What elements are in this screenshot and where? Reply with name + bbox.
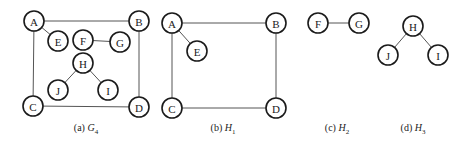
caption-subscript: 1 (232, 128, 236, 136)
panel-a: ABEFGHJICD (23, 11, 149, 117)
node-label: C (29, 101, 36, 113)
caption-variable: G (87, 122, 94, 133)
node-label: D (135, 102, 143, 114)
panel-b: ABECD (162, 13, 286, 118)
node-G: G (349, 13, 369, 33)
caption-subscript: 2 (346, 128, 350, 136)
node-label: E (55, 36, 62, 48)
node-label: A (30, 16, 38, 28)
edge-A-C (33, 21, 34, 106)
caption-prefix: (b) (211, 122, 225, 133)
node-D: D (129, 97, 149, 117)
node-label: I (436, 50, 440, 62)
panel-d: HJI (378, 16, 448, 65)
caption-prefix: (a) (74, 122, 88, 133)
node-C: C (23, 96, 43, 116)
panel-c: FG (308, 13, 369, 33)
caption-variable: H (338, 122, 345, 133)
caption-a: (a) G4 (74, 122, 98, 136)
node-label: A (168, 18, 176, 30)
node-label: G (116, 37, 124, 49)
node-G: G (110, 32, 130, 52)
node-F: F (73, 30, 93, 50)
caption-prefix: (c) (325, 122, 339, 133)
caption-b: (b) H1 (211, 122, 236, 136)
node-J: J (378, 45, 398, 65)
caption-subscript: 3 (422, 128, 426, 136)
node-label: C (168, 103, 175, 115)
node-A: A (162, 13, 182, 33)
caption-prefix: (d) (401, 122, 415, 133)
caption-subscript: 4 (95, 128, 99, 136)
node-B: B (129, 11, 149, 31)
node-H: H (73, 53, 93, 73)
node-E: E (48, 31, 68, 51)
node-label: B (135, 16, 142, 28)
node-H: H (403, 16, 423, 36)
node-I: I (428, 45, 448, 65)
node-label: J (56, 85, 61, 97)
node-label: H (79, 58, 87, 70)
edge-C-D (33, 106, 139, 107)
node-B: B (266, 13, 286, 33)
node-label: H (409, 21, 417, 33)
caption-c: (c) H2 (325, 122, 349, 136)
node-C: C (162, 98, 182, 118)
node-E: E (187, 41, 207, 61)
node-J: J (48, 80, 68, 100)
node-label: E (194, 46, 201, 58)
node-label: D (272, 103, 280, 115)
node-I: I (98, 80, 118, 100)
node-A: A (24, 11, 44, 31)
caption-d: (d) H3 (401, 122, 426, 136)
node-label: F (80, 35, 86, 47)
node-label: G (355, 18, 363, 30)
node-F: F (308, 13, 328, 33)
node-label: I (106, 85, 110, 97)
node-label: J (386, 50, 391, 62)
node-D: D (266, 98, 286, 118)
node-label: F (315, 18, 321, 30)
node-label: B (272, 18, 279, 30)
